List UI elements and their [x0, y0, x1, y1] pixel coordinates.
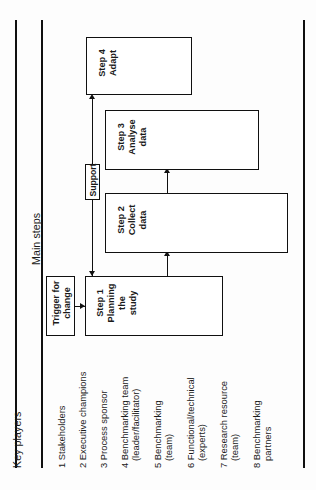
- connector-step1-step2: [167, 253, 168, 277]
- step-3-number: Step 3: [116, 123, 126, 151]
- support-spine-upper: [92, 96, 93, 164]
- key-player-6-line2: (experts): [196, 377, 207, 461]
- key-player-8: 8 Benchmarking partners: [251, 400, 273, 468]
- support-spine-lower: [92, 200, 93, 276]
- key-player-7-num: 7: [218, 463, 229, 468]
- step-3-line2: data: [138, 128, 148, 147]
- key-player-4: 4 Benchmarking team (leader/facilitator): [119, 377, 141, 468]
- key-player-5-line1: Benchmarking: [152, 400, 163, 460]
- step-1-line2: the: [117, 296, 127, 310]
- key-player-8-line1: Benchmarking: [251, 400, 262, 460]
- key-player-4-line2: (leader/facilitator): [130, 377, 141, 461]
- key-player-7-line2: (team): [229, 381, 240, 461]
- step-3-label: Step 3 Analyse data: [116, 107, 149, 167]
- key-player-4-num: 4: [119, 463, 130, 468]
- step-2-number: Step 2: [116, 206, 126, 234]
- step-1-number: Step 1: [95, 289, 105, 317]
- step-4-line1: Adapt: [108, 50, 118, 76]
- step-1-box[interactable]: Step 1 Planning the study: [85, 276, 223, 336]
- trigger-line2: change: [62, 287, 72, 319]
- connector-step2-step3: [167, 170, 168, 194]
- trigger-for-change-label: Trigger for change: [51, 273, 73, 333]
- key-player-5-line2: (team): [163, 400, 174, 461]
- key-player-2: 2 Executive champions: [77, 372, 88, 468]
- support-label: Support: [88, 162, 98, 198]
- step-1-label: Step 1 Planning the study: [95, 273, 139, 333]
- key-player-6: 6 Functional/technical (experts): [185, 377, 207, 468]
- trigger-for-change-box[interactable]: Trigger for change: [46, 276, 75, 336]
- step-2-box[interactable]: Step 2 Collect data: [105, 193, 288, 253]
- key-player-7: 7 Research resource (team): [218, 381, 240, 468]
- key-player-6-num: 6: [185, 463, 196, 468]
- key-player-1: 1 Stakeholders: [56, 405, 67, 468]
- support-text: Support: [88, 164, 98, 197]
- step-2-line2: data: [138, 211, 148, 230]
- header-key-players: Key players: [11, 412, 24, 468]
- key-player-4-line1: Benchmarking team: [119, 377, 130, 460]
- key-player-8-line2: partners: [262, 400, 273, 461]
- key-player-3: 3 Process sponsor: [98, 390, 109, 468]
- key-player-8-num: 8: [251, 463, 262, 468]
- key-player-3-line1: Process sponsor: [98, 390, 109, 460]
- step-1-line1: Planning: [106, 284, 116, 323]
- step-2-line1: Collect: [127, 205, 137, 236]
- step-2-label: Step 2 Collect data: [116, 190, 149, 250]
- key-player-5: 5 Benchmarking (team): [152, 400, 174, 468]
- step-4-box[interactable]: Step 4 Adapt: [86, 37, 192, 95]
- step-3-box[interactable]: Step 3 Analyse data: [105, 110, 259, 170]
- key-player-5-num: 5: [152, 463, 163, 468]
- step-4-label: Step 4 Adapt: [97, 34, 119, 92]
- step-4-number: Step 4: [97, 49, 107, 77]
- step-3-line1: Analyse: [127, 119, 137, 154]
- support-box[interactable]: Support: [85, 164, 100, 200]
- key-player-3-num: 3: [98, 463, 109, 468]
- divider-outer-left: [15, 20, 17, 468]
- step-1-line3: study: [128, 291, 138, 316]
- key-player-1-num: 1: [56, 463, 67, 468]
- trigger-line1: Trigger for: [51, 281, 61, 326]
- key-player-2-line1: Executive champions: [77, 372, 88, 461]
- key-player-7-line1: Research resource: [218, 381, 229, 460]
- key-player-6-line1: Functional/technical: [185, 377, 196, 460]
- header-main-steps: Main steps: [30, 213, 43, 265]
- diagram-canvas: Main steps Key players Step 4 Adapt Step…: [0, 0, 316, 490]
- divider-right-border: [303, 20, 305, 468]
- key-player-1-line1: Stakeholders: [56, 405, 67, 460]
- key-player-2-num: 2: [77, 463, 88, 468]
